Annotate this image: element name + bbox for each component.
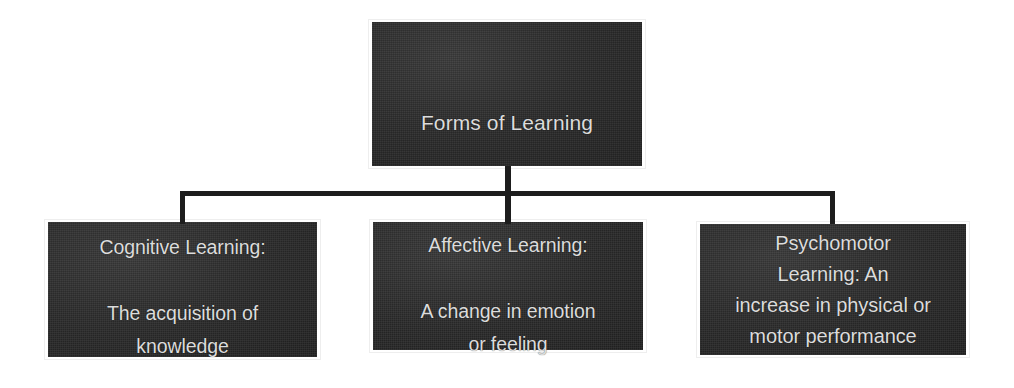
forms-of-learning-diagram: Forms of Learning Cognitive Learning: Th…	[0, 0, 1014, 388]
node-cognitive-learning: Cognitive Learning: The acquisition of k…	[48, 222, 317, 357]
node-cognitive-line-4: knowledge	[48, 330, 317, 363]
node-affective-line-1: Affective Learning:	[373, 229, 643, 262]
node-affective-line-4: or feeling	[373, 328, 643, 361]
node-cognitive-text: Cognitive Learning: The acquisition of k…	[48, 222, 317, 363]
connector-root-stem	[505, 166, 511, 194]
node-affective-text: Affective Learning: A change in emotion …	[373, 222, 643, 361]
node-affective-line-3: A change in emotion	[373, 295, 643, 328]
node-psychomotor-text: Psychomotor Learning: An increase in phy…	[700, 224, 966, 352]
connector-drop-left	[180, 191, 185, 224]
node-root-text: Forms of Learning	[372, 110, 642, 136]
node-cognitive-line-3: The acquisition of	[48, 297, 317, 330]
node-psychomotor-line-2: Learning: An	[700, 259, 966, 290]
node-psychomotor-line-4: motor performance	[693, 321, 973, 352]
connector-drop-right	[830, 191, 835, 224]
node-psychomotor-learning: Psychomotor Learning: An increase in phy…	[700, 224, 966, 355]
node-psychomotor-line-1: Psychomotor	[700, 228, 966, 259]
node-psychomotor-line-3: increase in physical or	[693, 290, 973, 321]
node-forms-of-learning: Forms of Learning	[372, 22, 642, 166]
node-cognitive-line-1: Cognitive Learning:	[48, 231, 317, 264]
connector-drop-center	[505, 191, 511, 224]
node-root-label: Forms of Learning	[372, 110, 642, 136]
node-affective-learning: Affective Learning: A change in emotion …	[373, 222, 643, 350]
